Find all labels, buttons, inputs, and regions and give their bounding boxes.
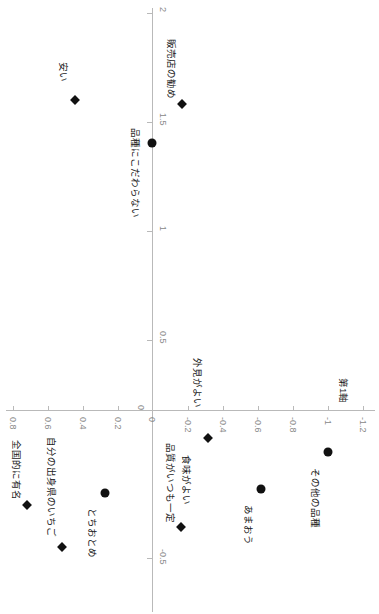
tick-label-axis2-neg1p2: -1.2 bbox=[358, 417, 368, 433]
data-point-marker bbox=[70, 95, 80, 105]
data-point-marker bbox=[177, 99, 187, 109]
tick-label-axis2-0p2: 0.2 bbox=[113, 417, 123, 430]
tick-label-axis2-0p8: 0.8 bbox=[8, 417, 18, 430]
tick-label-axis2-neg1: -1 bbox=[323, 417, 333, 425]
data-point-marker bbox=[148, 139, 157, 148]
tick-axis2-neg1p2 bbox=[363, 406, 364, 411]
tick-label-axis2-neg0p8: -0.8 bbox=[288, 417, 298, 433]
tick-label-axis2-neg0p4: -0.4 bbox=[218, 417, 228, 433]
axis-title-first: 第1軸 bbox=[339, 378, 349, 403]
data-point-label: 食味がよい bbox=[182, 455, 192, 505]
data-point-label: 販売店の勧め bbox=[167, 39, 177, 99]
tick-label-axis1-1: 1 bbox=[158, 226, 168, 231]
tick-axis2-0p6 bbox=[48, 406, 49, 411]
data-point-label: 全国的に有名 bbox=[12, 440, 22, 500]
tick-axis2-0 bbox=[152, 406, 153, 411]
data-point-label: 外見がよい bbox=[193, 358, 203, 408]
data-point-label: とちおとめ bbox=[88, 508, 98, 558]
data-point-marker bbox=[176, 522, 186, 532]
tick-axis2-neg0p2 bbox=[188, 406, 189, 411]
data-point-marker bbox=[203, 433, 213, 443]
axis-line-horizontal bbox=[6, 410, 375, 411]
data-point-label: 自分の出身県のいちご bbox=[47, 437, 57, 537]
data-point-label: あまおう bbox=[244, 505, 254, 545]
plot-area: 2 1.5 1 0.5 0 -0.5 0.8 0.6 0.4 0.2 0 -0.… bbox=[0, 0, 379, 614]
tick-axis1-0p5 bbox=[147, 340, 152, 341]
tick-axis1-1 bbox=[147, 231, 152, 232]
tick-axis2-neg0p8 bbox=[293, 406, 294, 411]
tick-axis1-neg0p5 bbox=[147, 558, 152, 559]
tick-label-axis2-0p6: 0.6 bbox=[43, 417, 53, 430]
tick-label-axis1-neg0p5: -0.5 bbox=[158, 549, 168, 565]
tick-label-axis1-0p5: 0.5 bbox=[158, 331, 168, 344]
tick-axis2-neg0p6 bbox=[258, 406, 259, 411]
scatter-chart: 2 1.5 1 0.5 0 -0.5 0.8 0.6 0.4 0.2 0 -0.… bbox=[0, 0, 379, 614]
axis-line-vertical bbox=[152, 8, 153, 612]
tick-axis1-2 bbox=[147, 13, 152, 14]
tick-label-axis1-2: 2 bbox=[158, 7, 168, 12]
tick-axis2-neg0p4 bbox=[223, 406, 224, 411]
tick-label-axis2-neg0p2: -0.2 bbox=[183, 417, 193, 433]
data-point-marker bbox=[324, 448, 333, 457]
tick-label-axis2-0: 0 bbox=[147, 417, 157, 422]
data-point-marker bbox=[57, 542, 67, 552]
tick-axis2-neg1 bbox=[328, 406, 329, 411]
tick-label-axis2-neg0p6: -0.6 bbox=[253, 417, 263, 433]
data-point-marker bbox=[257, 485, 266, 494]
data-point-marker bbox=[101, 489, 110, 498]
tick-label-axis1-1p5: 1.5 bbox=[158, 113, 168, 126]
data-point-marker bbox=[22, 500, 32, 510]
tick-label-axis1-0: 0 bbox=[136, 405, 146, 410]
tick-axis2-0p4 bbox=[83, 406, 84, 411]
tick-label-axis2-0p4: 0.4 bbox=[78, 417, 88, 430]
tick-axis2-0p8 bbox=[13, 406, 14, 411]
data-point-label: 安い bbox=[59, 62, 69, 82]
data-point-label: 品質がいつも一定 bbox=[166, 443, 176, 523]
tick-axis2-0p2 bbox=[118, 406, 119, 411]
data-point-label: その他の品種 bbox=[311, 468, 321, 528]
data-point-label: 品種にこだわらない bbox=[131, 128, 141, 218]
tick-axis1-1p5 bbox=[147, 122, 152, 123]
